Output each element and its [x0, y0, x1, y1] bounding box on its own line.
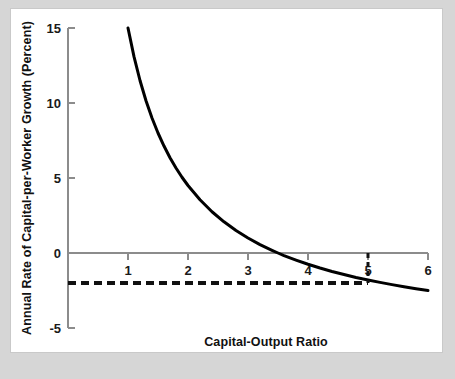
x-tick-label-1: 1	[124, 263, 131, 278]
figure-root: 15 10 5 0 -5 1 2 3 4 5 6 Capital-Output …	[0, 0, 455, 379]
chart-canvas: 15 10 5 0 -5 1 2 3 4 5 6 Capital-Output …	[11, 9, 442, 352]
y-tick-label-15: 15	[47, 21, 61, 36]
y-axis-title: Annual Rate of Capital-per-Worker Growth…	[20, 21, 34, 335]
y-tick-label-5: 5	[54, 171, 61, 186]
x-tick-label-2: 2	[184, 263, 191, 278]
x-axis-title: Capital-Output Ratio	[204, 335, 328, 349]
chart-panel: 15 10 5 0 -5 1 2 3 4 5 6 Capital-Output …	[10, 8, 443, 353]
y-tick-label-10: 10	[47, 96, 61, 111]
x-tick-label-6: 6	[424, 263, 431, 278]
y-tick-label-minus5: -5	[49, 321, 61, 336]
series-line-capital-growth	[128, 28, 428, 291]
x-tick-label-3: 3	[244, 263, 251, 278]
y-tick-label-0: 0	[54, 246, 61, 261]
